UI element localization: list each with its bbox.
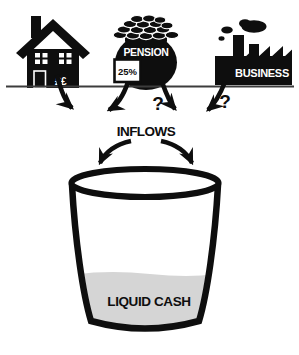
pension-badge-value: 25% bbox=[118, 66, 138, 77]
cash-inflows-diagram: ££ PENSION 25% bbox=[0, 0, 299, 355]
pension-label: PENSION bbox=[123, 46, 168, 58]
funnel-arrow-left bbox=[100, 141, 131, 163]
question-mark-1: ? bbox=[152, 93, 164, 114]
inflows-label: INFLOWS bbox=[117, 124, 176, 139]
bucket: LIQUID CASH bbox=[60, 169, 235, 350]
liquid-cash-label: LIQUID CASH bbox=[107, 294, 190, 309]
question-mark-2: ? bbox=[219, 91, 231, 112]
diagram-canvas: ££ PENSION 25% bbox=[0, 0, 299, 355]
pension-pot-icon: PENSION 25% bbox=[113, 15, 179, 90]
pension-badge: 25% bbox=[115, 60, 141, 83]
bucket-rim bbox=[72, 169, 219, 197]
coin-pile-icon bbox=[113, 15, 179, 40]
business-label: BUSINESS bbox=[235, 67, 289, 79]
funnel-arrow-right bbox=[161, 141, 192, 163]
house-icon: ££ bbox=[16, 16, 90, 88]
house-door bbox=[34, 71, 46, 88]
funnel-arrows bbox=[100, 141, 192, 163]
factory-icon: BUSINESS bbox=[215, 19, 292, 85]
